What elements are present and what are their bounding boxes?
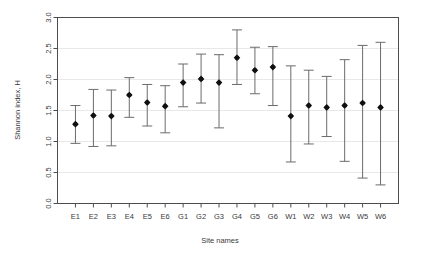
- data-point-group-W1: [286, 66, 296, 162]
- x-tick-label-G4: G4: [232, 212, 242, 221]
- x-tick-label-G1: G1: [178, 212, 188, 221]
- data-point-dot-E3: [109, 114, 113, 118]
- data-point-dot-W3: [325, 105, 329, 109]
- x-tick-label-E2: E2: [89, 212, 98, 221]
- data-point-dot-G1: [181, 80, 185, 84]
- x-axis: E1E2E3E4E5E6G1G2G3G4G5G6W1W2W3W4W5W6: [71, 204, 386, 221]
- x-axis-title: Site names: [201, 236, 239, 245]
- x-tick-label-G2: G2: [196, 212, 206, 221]
- y-tick-label-2.5: 2.5: [44, 43, 53, 53]
- x-tick-label-E3: E3: [107, 212, 116, 221]
- data-point-dot-E1: [73, 122, 77, 126]
- data-point-group-E2: [88, 89, 98, 146]
- data-point-dot-E6: [163, 104, 167, 108]
- data-point-group-W3: [322, 76, 332, 136]
- x-tick-label-W5: W5: [357, 212, 368, 221]
- data-point-group-G1: [178, 64, 188, 107]
- x-tick-label-W2: W2: [303, 212, 314, 221]
- x-tick-label-E1: E1: [71, 212, 80, 221]
- data-point-group-E4: [124, 78, 134, 118]
- data-point-dot-G6: [271, 65, 275, 69]
- y-tick-label-2.0: 2.0: [44, 74, 53, 84]
- data-point-group-G4: [232, 30, 242, 85]
- data-point-group-G2: [196, 54, 206, 103]
- data-point-group-E1: [70, 106, 80, 144]
- data-point-group-G5: [250, 47, 260, 94]
- x-tick-label-E5: E5: [143, 212, 152, 221]
- chart-canvas: 0.00.51.01.52.02.53.0E1E2E3E4E5E6G1G2G3G…: [0, 0, 440, 254]
- data-point-group-G3: [214, 55, 224, 128]
- data-point-dot-G5: [253, 68, 257, 72]
- x-tick-label-G5: G5: [250, 212, 260, 221]
- y-axis: 0.00.51.01.52.02.53.0: [44, 12, 58, 208]
- data-point-dot-W5: [360, 101, 364, 105]
- y-tick-label-0.5: 0.5: [44, 167, 53, 177]
- y-tick-label-1.5: 1.5: [44, 105, 53, 115]
- y-tick-label-3.0: 3.0: [44, 12, 53, 22]
- shannon-index-errorbar-plot: 0.00.51.01.52.02.53.0E1E2E3E4E5E6G1G2G3G…: [0, 0, 440, 254]
- data-point-dot-W1: [289, 114, 293, 118]
- data-point-dot-W4: [342, 103, 346, 107]
- x-tick-label-E6: E6: [161, 212, 170, 221]
- data-point-group-W2: [304, 70, 314, 144]
- data-point-dot-G3: [217, 80, 221, 84]
- y-axis-title: Shannon index, H: [13, 80, 22, 140]
- x-tick-label-W3: W3: [321, 212, 332, 221]
- y-tick-label-0.0: 0.0: [44, 198, 53, 208]
- x-tick-label-E4: E4: [125, 212, 134, 221]
- data-point-dot-G2: [199, 77, 203, 81]
- data-point-dot-G4: [235, 56, 239, 60]
- data-point-dot-E4: [127, 93, 131, 97]
- data-point-group-E6: [160, 86, 170, 133]
- data-point-group-E5: [142, 84, 152, 126]
- x-tick-label-W4: W4: [339, 212, 350, 221]
- x-tick-label-G3: G3: [214, 212, 224, 221]
- data-point-dot-W6: [378, 105, 382, 109]
- y-tick-label-1.0: 1.0: [44, 136, 53, 146]
- x-tick-label-W6: W6: [375, 212, 386, 221]
- data-point-group-W5: [358, 45, 368, 178]
- data-point-group-G6: [268, 47, 278, 106]
- x-tick-label-G6: G6: [268, 212, 278, 221]
- data-point-group-W6: [376, 42, 386, 185]
- data-point-dot-E2: [91, 113, 95, 117]
- data-series: [70, 30, 385, 185]
- x-tick-label-W1: W1: [285, 212, 296, 221]
- data-point-group-E3: [106, 90, 116, 146]
- data-point-dot-W2: [307, 103, 311, 107]
- gridlines: [58, 18, 399, 173]
- data-point-dot-E5: [145, 100, 149, 104]
